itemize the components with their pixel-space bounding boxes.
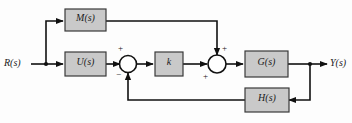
summer-2-sign-plus-top: + [222, 44, 227, 53]
signal-label-output: Y(s) [330, 57, 346, 68]
wire-branch-to-feedforward [46, 21, 63, 64]
branch-dot-output [308, 62, 312, 66]
block-plant-shape [245, 51, 288, 77]
wire-feedback-to-summer1 [128, 73, 245, 100]
summer-1-shape [120, 56, 137, 73]
summer-2-sign-plus-left: + [203, 72, 208, 81]
summer-1-sign-minus: − [116, 70, 121, 79]
summer-2-shape [208, 55, 226, 73]
summer-1-sign-plus: + [118, 44, 123, 53]
branch-dot-input [44, 62, 48, 66]
block-gain-shape [155, 52, 183, 76]
block-controller-shape [65, 52, 106, 76]
wire-tap-to-feedback [289, 64, 310, 100]
block-feedforward-shape [65, 9, 106, 31]
block-diagram-graphics [0, 0, 352, 123]
block-feedback-shape [245, 88, 289, 112]
block-diagram-canvas: M(s) U(s) k G(s) H(s) R(s) Y(s) + − + + [0, 0, 352, 123]
signal-label-input: R(s) [4, 57, 21, 68]
